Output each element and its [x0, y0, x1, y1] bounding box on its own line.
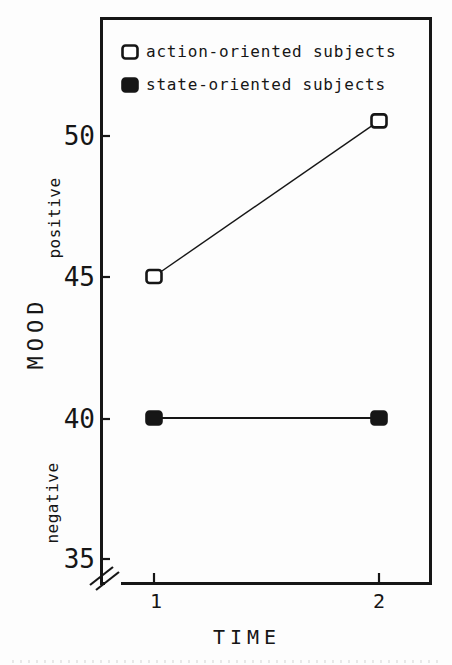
series-line-0 — [154, 121, 379, 277]
y-tick-label-40: 40 — [25, 405, 95, 433]
legend-label-state: state-oriented subjects — [146, 76, 386, 94]
axis-break-gap — [105, 578, 121, 589]
figure-page: action-oriented subjects state-oriented … — [0, 0, 452, 665]
x-axis-ticks — [154, 573, 379, 583]
y-tick-label-50: 50 — [25, 122, 95, 150]
x-tick-label-1: 1 — [136, 590, 176, 612]
data-point-open-square-t2 — [372, 114, 387, 127]
x-axis-title: TIME — [177, 626, 317, 648]
data-point-filled-square-t1 — [147, 412, 162, 425]
cropped-caption-fragment — [12, 660, 440, 663]
legend-label-action: action-oriented subjects — [146, 43, 396, 61]
y-axis-ticks — [103, 136, 110, 559]
y-axis-negative-label: negative — [43, 433, 63, 573]
series-layer — [147, 114, 387, 424]
y-axis-positive-label: positive — [45, 148, 65, 288]
legend-open-square-icon — [123, 46, 138, 59]
x-tick-label-2: 2 — [359, 590, 399, 612]
legend-filled-square-icon — [123, 79, 138, 92]
data-point-filled-square-t2 — [372, 412, 387, 425]
data-point-open-square-t1 — [147, 270, 162, 283]
plot-frame — [102, 19, 431, 584]
